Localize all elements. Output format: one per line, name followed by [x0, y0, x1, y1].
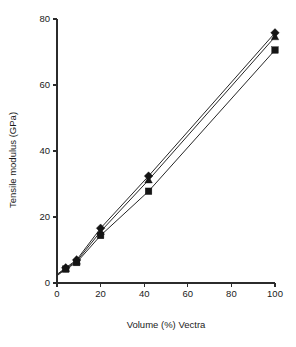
x-tick-label: 40 — [139, 288, 150, 299]
x-tick-label: 100 — [267, 288, 283, 299]
y-tick-label: 60 — [39, 79, 50, 90]
y-tick-label: 20 — [39, 211, 50, 222]
series-layer — [57, 29, 279, 276]
x-tick-label: 60 — [183, 288, 194, 299]
chart-figure: 020406080 Tensile modulus (GPa) 02040608… — [0, 0, 296, 347]
data-point-square — [97, 232, 104, 239]
y-tick-label: 0 — [45, 277, 50, 288]
x-tick-label: 80 — [226, 288, 237, 299]
y-axis-title: Tensile modulus (GPa) — [7, 112, 18, 208]
x-axis: 020406080100 Volume (%) Vectra — [54, 283, 283, 330]
x-axis-ticks: 020406080100 — [54, 283, 283, 299]
x-tick-label: 20 — [95, 288, 106, 299]
y-tick-label: 40 — [39, 145, 50, 156]
tensile-modulus-line-chart: 020406080 Tensile modulus (GPa) 02040608… — [0, 0, 296, 347]
y-axis-ticks: 020406080 — [39, 13, 57, 288]
data-point-square — [145, 188, 152, 195]
data-point-square — [73, 259, 80, 266]
series-line — [57, 33, 275, 275]
x-axis-title: Volume (%) Vectra — [127, 319, 206, 330]
series-diamond — [57, 33, 275, 275]
y-tick-label: 80 — [39, 13, 50, 24]
x-tick-label: 0 — [54, 288, 59, 299]
y-axis: 020406080 Tensile modulus (GPa) — [7, 13, 57, 288]
data-point-square — [62, 266, 69, 273]
data-point-square — [272, 47, 279, 54]
